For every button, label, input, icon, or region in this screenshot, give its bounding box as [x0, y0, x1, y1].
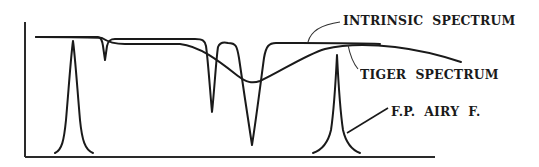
fp-airy-label: F.P. AIRY F. [391, 103, 481, 119]
airy-peak-2 [313, 55, 360, 153]
intrinsic-spectrum-curve [36, 37, 380, 145]
intrinsic-leader-line [308, 22, 340, 42]
airy-leader-line [347, 108, 388, 133]
intrinsic-spectrum-label: INTRINSIC SPECTRUM [343, 12, 516, 28]
tiger-spectrum-label: TIGER SPECTRUM [360, 66, 499, 82]
tiger-leader-line [348, 45, 358, 69]
airy-peak-1 [55, 41, 93, 153]
